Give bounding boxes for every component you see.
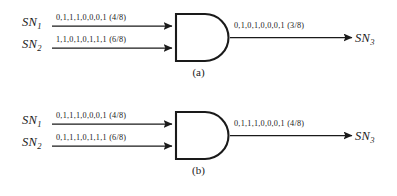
input-1-sequence-a: 0,1,1,1,0,0,0,1 (4/8) xyxy=(56,14,126,22)
input-1-label-subscript-a: 1 xyxy=(37,21,41,31)
input-1-sequence-b: 0,1,1,1,0,0,0,1 (4/8) xyxy=(56,112,126,120)
input-1-label-subscript-b: 1 xyxy=(37,119,41,129)
panel-caption-b: (b) xyxy=(0,165,397,176)
and-gate-symbol-b xyxy=(176,112,229,159)
figure-page: { "figure": { "background_color": "#ffff… xyxy=(0,0,397,196)
input-2-label-subscript-b: 2 xyxy=(37,141,41,151)
output-label-text-a: SN xyxy=(355,31,370,45)
output-label-subscript-b: 3 xyxy=(370,135,374,145)
and-gate-symbol-a xyxy=(176,14,229,61)
input-2-label-b: SN2 xyxy=(22,136,41,149)
input-1-label-text-b: SN xyxy=(22,113,37,127)
input-1-label-b: SN1 xyxy=(22,114,41,127)
output-sequence-b: 0,1,1,1,0,0,0,1 (4/8) xyxy=(234,120,304,128)
input-1-label-text-a: SN xyxy=(22,15,37,29)
output-label-text-b: SN xyxy=(355,129,370,143)
input-1-label-a: SN1 xyxy=(22,16,41,29)
output-label-b: SN3 xyxy=(355,130,374,143)
input-2-sequence-a: 1,1,0,1,0,1,1,1 (6/8) xyxy=(56,36,126,44)
input-2-label-subscript-a: 2 xyxy=(37,43,41,53)
input-2-label-a: SN2 xyxy=(22,38,41,51)
input-2-label-text-a: SN xyxy=(22,37,37,51)
figure-panel-b: SN1 SN2 SN3 0,1,1,1,0,0,0,1 (4/8) 0,1,1,… xyxy=(0,98,397,196)
output-label-a: SN3 xyxy=(355,32,374,45)
output-label-subscript-a: 3 xyxy=(370,37,374,47)
input-2-sequence-b: 0,1,1,1,0,1,1,1 (6/8) xyxy=(56,134,126,142)
output-sequence-a: 0,1,0,1,0,0,0,1 (3/8) xyxy=(234,22,304,30)
panel-caption-a: (a) xyxy=(0,67,397,78)
input-2-label-text-b: SN xyxy=(22,135,37,149)
figure-panel-a: SN1 SN2 SN3 0,1,1,1,0,0,0,1 (4/8) 1,1,0,… xyxy=(0,0,397,98)
